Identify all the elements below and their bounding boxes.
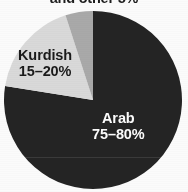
pie-label-arab-value: 75–80% <box>92 126 145 142</box>
pie-label-kurdish: Kurdish 15–20% <box>18 47 72 79</box>
pie-chart-figure: and other 5% Kurdish 15–20% Arab 75–80% <box>0 0 188 192</box>
pie-label-kurdish-value: 15–20% <box>18 63 72 79</box>
pie-label-arab: Arab 75–80% <box>92 110 145 142</box>
pie-chart-graphic <box>0 0 188 192</box>
scan-line-artifact <box>0 157 188 158</box>
pie-label-arab-name: Arab <box>102 110 135 126</box>
pie-label-kurdish-name: Kurdish <box>18 47 72 63</box>
